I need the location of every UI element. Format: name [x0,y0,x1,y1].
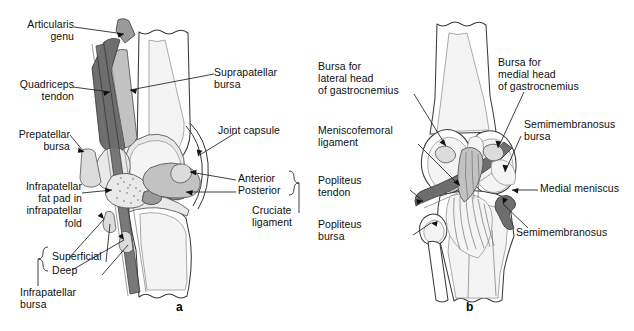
label-bursa-lateral-gastrocnemius: Bursa for lateral head of gastrocnemius [318,60,418,97]
figure-artwork [0,0,634,331]
prepatellar-bursa-a [80,149,101,187]
tibia-inner-shading-a [140,213,187,290]
label-popliteus-bursa: Popliteus bursa [318,218,388,242]
label-semimembranosus-bursa: Semimembranosus bursa [524,118,632,142]
label-medial-meniscus: Medial meniscus [540,182,634,194]
label-suprapatellar-bursa: Suprapatellar bursa [214,66,304,90]
label-prepatellar-bursa: Prepatellar bursa [2,128,70,152]
label-articularis-genu: Articularis genu [8,18,74,42]
label-popliteus-tendon: Popliteus tendon [318,174,388,198]
label-meniscofemoral-ligament: Meniscofemoral ligament [318,124,418,148]
infrapatellar-bursa-bracket [38,247,48,286]
panel-letter-b: b [466,300,473,314]
label-joint-capsule: Joint capsule [218,124,308,136]
label-superficial: Superficial [52,250,118,262]
label-bursa-medial-gastrocnemius: Bursa for medial head of gastrocnemius [498,56,608,93]
panel-letter-a: a [176,300,183,314]
anatomy-figure: Articularis genu Quadriceps tendon Prepa… [0,0,634,331]
label-infrapatellar-bursa: Infrapatellar bursa [20,286,100,310]
label-infrapatellar-fat-pad: Infrapatellar fat pad in infrapatellar f… [0,180,82,229]
label-quadriceps-tendon: Quadriceps tendon [4,78,74,102]
label-posterior: Posterior [238,184,290,196]
label-semimembranosus: Semimembranosus [516,226,628,238]
label-deep: Deep [52,264,118,276]
label-anterior: Anterior [238,172,290,184]
label-cruciate-ligament: Cruciate ligament [252,204,314,228]
